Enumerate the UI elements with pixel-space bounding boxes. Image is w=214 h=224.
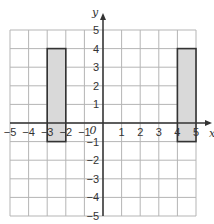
y-tick-label: −4 xyxy=(86,191,99,203)
coordinate-grid: −5−4−3−2−11234554321−1−2−3−4−50xy xyxy=(0,0,214,224)
x-tick-label: 5 xyxy=(193,126,199,138)
y-tick-label: −2 xyxy=(86,154,99,166)
y-tick-label: 3 xyxy=(93,61,99,73)
x-tick-label: −2 xyxy=(60,126,73,138)
y-tick-label: 2 xyxy=(93,80,99,92)
x-tick-label: 3 xyxy=(156,126,162,138)
y-tick-label: −5 xyxy=(86,210,99,222)
x-tick-label: 1 xyxy=(119,126,125,138)
origin-label: 0 xyxy=(90,124,97,137)
x-tick-label: −3 xyxy=(41,126,54,138)
x-tick-label: 2 xyxy=(137,126,143,138)
x-axis-label: x xyxy=(209,127,214,140)
y-axis-arrow-icon xyxy=(100,13,106,20)
x-tick-label: −4 xyxy=(22,126,35,138)
y-tick-label: 1 xyxy=(93,98,99,110)
y-tick-label: 5 xyxy=(93,24,99,36)
x-tick-label: −5 xyxy=(4,126,17,138)
y-tick-label: −1 xyxy=(86,136,99,148)
y-tick-label: 4 xyxy=(93,43,99,55)
x-tick-label: 4 xyxy=(174,126,180,138)
y-tick-label: −3 xyxy=(86,173,99,185)
y-axis-label: y xyxy=(91,6,99,19)
x-axis-arrow-icon xyxy=(205,120,212,126)
